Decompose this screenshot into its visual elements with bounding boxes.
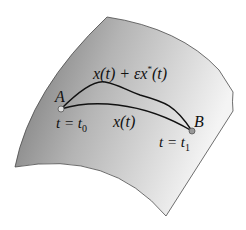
point-b-param-sub: 1 <box>185 142 190 153</box>
point-a-marker <box>58 106 64 112</box>
point-a-param: t = t <box>56 115 83 131</box>
point-a-param-sub: 0 <box>82 123 87 134</box>
diagram-canvas: x(t) + εx*(t) A B t = t0 t = t1 x(t) <box>0 0 246 230</box>
point-a-label: A <box>54 88 65 105</box>
perturbed-path-label-tail: (t) <box>152 65 167 83</box>
perturbed-path-label: x(t) + εx <box>92 65 147 83</box>
original-path-label: x(t) <box>112 113 135 131</box>
point-b-label: B <box>194 113 204 130</box>
point-b-param: t = t <box>159 134 186 150</box>
svg-text:x(t) + εx*(t): x(t) + εx*(t) <box>92 64 167 83</box>
